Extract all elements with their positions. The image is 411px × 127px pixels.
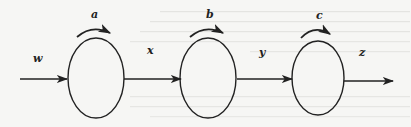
label-b: b — [206, 8, 214, 21]
label-z: z — [358, 46, 366, 59]
diagram-canvas: w a x b y c z — [0, 0, 411, 127]
flow-diagram: w a x b y c z — [0, 0, 411, 127]
label-c: c — [316, 9, 323, 22]
self-loop-arrow-b — [190, 29, 223, 37]
label-a: a — [91, 8, 98, 21]
label-x: x — [146, 44, 154, 57]
label-w: w — [33, 52, 43, 65]
node-1 — [68, 38, 124, 118]
bleed-through-texture — [130, 11, 410, 117]
self-loop-arrow-a — [77, 29, 110, 37]
label-y: y — [258, 46, 267, 59]
